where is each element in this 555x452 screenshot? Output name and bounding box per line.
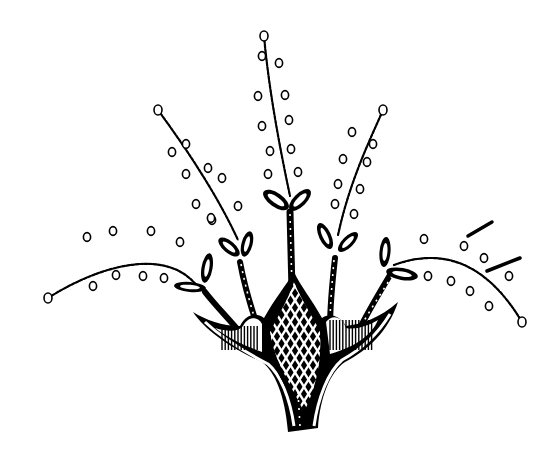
pollen-dot (139, 272, 146, 281)
anther-tip (260, 31, 268, 41)
pollen-dot (89, 282, 96, 291)
pollen-dot (447, 277, 454, 286)
pollen-dot (339, 155, 346, 164)
pollen-dot (109, 227, 116, 236)
pollen-dot (258, 52, 265, 61)
pollen-dot (176, 238, 183, 247)
stamen-left-upper (158, 110, 238, 240)
stamen-right-upper (338, 110, 383, 235)
pollen-dot (331, 200, 338, 209)
pollen-dot (369, 140, 376, 149)
pollen-dot (480, 254, 487, 263)
pollen-dot (258, 122, 265, 131)
pollen-dot (420, 235, 427, 244)
pollen-dots (83, 52, 512, 311)
anther-tip (44, 293, 52, 303)
pollen-dot (294, 168, 301, 177)
pollen-dot (207, 214, 214, 223)
pollen-dot (505, 272, 512, 281)
pollen-dot (350, 210, 357, 219)
pollen-dot (160, 274, 167, 283)
petal-marks (468, 222, 520, 271)
pollen-dot (192, 200, 199, 209)
stamen-left-lower (48, 264, 200, 298)
pollen-dot (334, 180, 341, 189)
pollen-dot (254, 92, 261, 101)
pollen-dot (182, 140, 189, 149)
flower-illustration (0, 0, 555, 452)
pollen-dot (83, 233, 90, 242)
anther-tip (518, 317, 526, 327)
pollen-dot (275, 59, 282, 68)
pollen-dot (485, 302, 492, 311)
pollen-dot (218, 174, 225, 183)
pollen-dot (264, 170, 271, 179)
anther-tip (154, 105, 162, 115)
pollen-dot (363, 158, 370, 167)
calyx (60, 270, 530, 432)
pollen-dot (266, 147, 273, 156)
pollen-dot (234, 202, 241, 211)
pollen-dot (112, 271, 119, 280)
pollen-dot (204, 164, 211, 173)
stamen-right-lower (394, 258, 522, 322)
petal-mark (487, 258, 520, 271)
petal-mark (468, 222, 492, 236)
pollen-dot (281, 91, 288, 100)
pollen-dot (147, 227, 154, 236)
pollen-dot (466, 287, 473, 296)
pollen-dot (182, 170, 189, 179)
pollen-dot (285, 116, 292, 125)
anther-tip (379, 105, 387, 115)
pollen-dot (356, 185, 363, 194)
pollen-dot (424, 272, 431, 281)
pollen-dot (348, 128, 355, 137)
pollen-dot (460, 242, 467, 251)
pollen-dot (287, 145, 294, 154)
pollen-dot (168, 148, 175, 157)
